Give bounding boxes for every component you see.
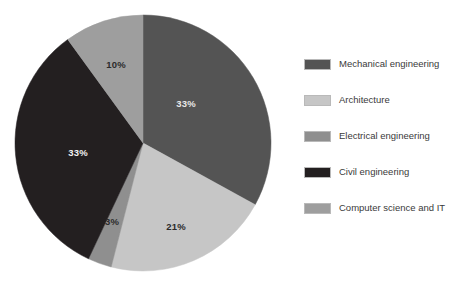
legend-item-civil-engineering[interactable]: Civil engineering — [304, 166, 451, 178]
legend-label-electrical-engineering: Electrical engineering — [339, 130, 430, 142]
legend-label-civil-engineering: Civil engineering — [339, 166, 409, 178]
pie-slice-label: 21% — [166, 221, 186, 232]
pie-plot-area: 33%21%3%33%10% — [0, 0, 290, 286]
legend-swatch-electrical-engineering — [304, 131, 331, 142]
legend-item-architecture[interactable]: Architecture — [304, 94, 451, 106]
pie-slice-label: 33% — [68, 147, 88, 158]
legend-label-computer-science-and-it: Computer science and IT — [339, 202, 445, 214]
legend-item-mechanical-engineering[interactable]: Mechanical engineering — [304, 58, 451, 70]
legend-swatch-mechanical-engineering — [304, 59, 331, 70]
legend-swatch-architecture — [304, 95, 331, 106]
chart-legend: Mechanical engineering Architecture Elec… — [304, 58, 451, 214]
pie-slice-label: 10% — [106, 59, 126, 70]
pie-slice-group — [15, 15, 271, 271]
legend-item-computer-science-and-it[interactable]: Computer science and IT — [304, 202, 451, 214]
legend-item-electrical-engineering[interactable]: Electrical engineering — [304, 130, 451, 142]
pie-slice-label: 3% — [105, 216, 119, 227]
legend-swatch-computer-science-and-it — [304, 203, 331, 214]
legend-label-architecture: Architecture — [339, 94, 390, 106]
legend-label-mechanical-engineering: Mechanical engineering — [339, 58, 439, 70]
pie-svg: 33%21%3%33%10% — [0, 0, 290, 286]
legend-swatch-civil-engineering — [304, 167, 331, 178]
pie-slice-label: 33% — [176, 98, 196, 109]
pie-chart: 33%21%3%33%10% Mechanical engineering Ar… — [0, 0, 451, 286]
